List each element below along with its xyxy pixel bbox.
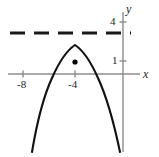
y-tick-label-1: 1 (112, 55, 118, 66)
y-axis-label: y (126, 3, 131, 15)
x-tick-label-minus4: -4 (68, 79, 77, 90)
marked-point (72, 59, 77, 64)
x-axis-label: x (143, 68, 148, 80)
x-tick-label-minus8: -8 (17, 79, 26, 90)
graph-figure: y x 4 1 -8 -4 (0, 0, 159, 157)
y-tick-label-4: 4 (110, 16, 116, 27)
